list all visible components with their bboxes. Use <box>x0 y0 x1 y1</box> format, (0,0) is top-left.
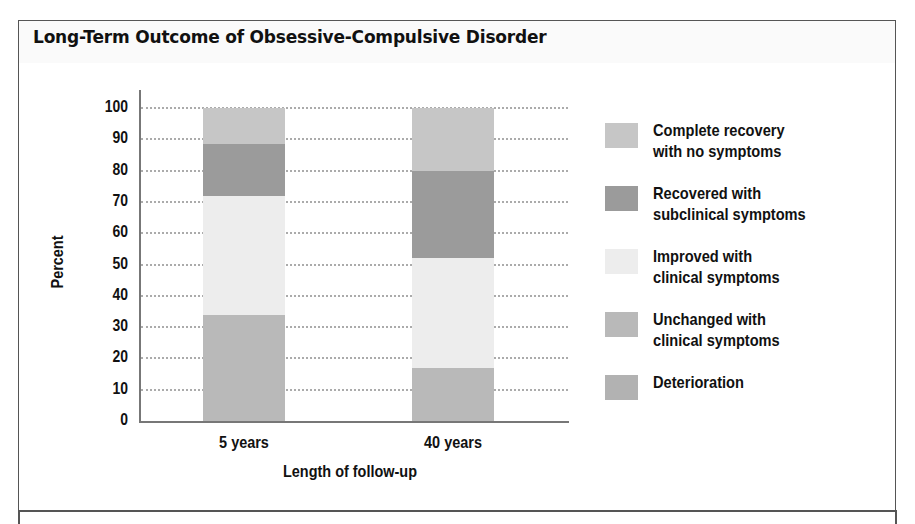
bar-segment-unchanged_clinical <box>203 315 285 421</box>
bar-segment-complete_recovery <box>203 108 285 144</box>
y-tick-label: 50 <box>95 254 128 274</box>
y-tick-label: 70 <box>95 191 128 211</box>
chart-title: Long-Term Outcome of Obsessive-Compulsiv… <box>33 27 546 47</box>
x-tick-label: 40 years <box>402 433 504 453</box>
legend-label: Improved with clinical symptoms <box>653 246 842 288</box>
y-tick-label: 20 <box>95 347 128 367</box>
bottom-divider <box>18 510 897 512</box>
y-axis-label: Percent <box>48 235 68 288</box>
caption-frame-left <box>18 511 20 524</box>
y-tick-label: 40 <box>95 285 128 305</box>
y-tick-label: 10 <box>95 379 128 399</box>
legend-swatch <box>605 123 638 148</box>
bar-segment-improved_clinical <box>412 258 494 368</box>
x-axis-label: Length of follow-up <box>248 462 452 482</box>
legend-swatch <box>605 312 638 337</box>
y-tick-label: 60 <box>95 222 128 242</box>
legend-swatch <box>605 186 638 211</box>
y-tick-label: 0 <box>95 410 128 430</box>
x-axis <box>139 421 569 423</box>
y-tick-label: 90 <box>95 128 128 148</box>
x-tick-label: 5 years <box>193 433 295 453</box>
y-tick-label: 30 <box>95 316 128 336</box>
legend-label: Complete recovery with no symptoms <box>653 120 842 162</box>
bar-segment-recovered_subclinical <box>203 144 285 196</box>
bar-segment-recovered_subclinical <box>412 171 494 259</box>
caption-frame-right <box>895 511 897 524</box>
bar-segment-complete_recovery <box>412 108 494 171</box>
bar-segment-unchanged_clinical <box>412 368 494 421</box>
y-tick-label: 100 <box>95 97 128 117</box>
y-tick-label: 80 <box>95 160 128 180</box>
legend-label: Unchanged with clinical symptoms <box>653 309 842 351</box>
legend-swatch <box>605 249 638 274</box>
bar-segment-improved_clinical <box>203 196 285 315</box>
legend-swatch <box>605 375 638 400</box>
legend-label: Recovered with subclinical symptoms <box>653 183 842 225</box>
legend-label: Deterioration <box>653 372 842 393</box>
